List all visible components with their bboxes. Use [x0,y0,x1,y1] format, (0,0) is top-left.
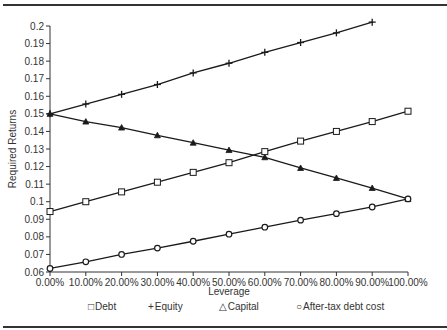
x-tick-label: 30.00% [140,277,174,288]
series-layer [47,19,412,272]
y-tick-label: 0.18 [25,56,45,67]
legend-item-after-tax-debt-cost: ○After-tax debt cost [296,301,384,312]
circle-marker-icon: ○ [296,301,302,312]
chart-canvas: 0.060.070.080.090.10.110.120.130.140.150… [0,0,447,330]
y-tick-label: 0.09 [25,214,45,225]
legend-item-capital: △Capital [219,301,259,312]
series-equity [47,19,376,118]
y-tick-label: 0.19 [25,38,45,49]
legend-item-debt: □Debt [88,301,116,312]
axes: 0.060.070.080.090.10.110.120.130.140.150… [25,21,428,289]
x-tick-label: 80.00% [319,277,353,288]
series-capital [47,111,411,202]
x-tick-label: 20.00% [105,277,139,288]
square-marker-icon: □ [88,301,94,312]
y-tick-label: 0.15 [25,108,45,119]
x-tick-label: 60.00% [248,277,282,288]
y-axis-title: Required Returns [7,110,18,188]
y-tick-label: 0.08 [25,231,45,242]
y-tick-label: 0.12 [25,161,45,172]
y-tick-label: 0.16 [25,91,45,102]
x-tick-label: 0.00% [36,277,64,288]
plus-marker-icon: + [148,301,154,312]
x-tick-label: 90.00% [355,277,389,288]
y-tick-label: 0.07 [25,249,45,260]
y-tick-label: 0.11 [25,179,44,190]
y-tick-label: 0.13 [25,144,45,155]
y-tick-label: 0.06 [25,267,45,278]
series-after-tax-debt-cost [47,196,411,271]
x-tick-label: 100.00% [388,277,428,288]
y-tick-label: 0.2 [30,21,44,32]
bottom-rule [3,326,447,328]
x-axis-title: Leverage [208,286,250,297]
legend-item-equity: +Equity [148,301,183,312]
y-tick-label: 0.14 [25,126,45,137]
y-tick-label: 0.1 [30,196,44,207]
x-tick-label: 10.00% [69,277,103,288]
triangle-marker-icon: △ [219,301,227,312]
x-tick-label: 70.00% [284,277,318,288]
y-tick-label: 0.17 [25,73,45,84]
x-tick-label: 40.00% [176,277,210,288]
